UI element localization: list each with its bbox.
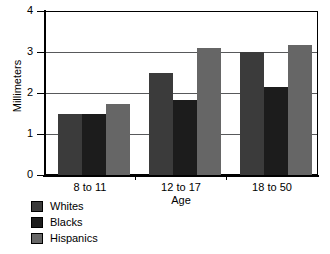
- y-tick-0: [37, 175, 44, 176]
- y-tick-1: [37, 134, 44, 135]
- bar-hispanics-12-to-17: [197, 48, 221, 175]
- bar-chart: 4 3 2 1 0 8 to 11 12 to 17 18 to 50 Mill…: [0, 0, 330, 254]
- legend-swatch-whites: [31, 201, 43, 212]
- y-axis-line: [44, 10, 46, 177]
- y-tick-4: [37, 11, 44, 12]
- bar-blacks-12-to-17: [173, 100, 197, 175]
- x-tick-label-8-to-11: 8 to 11: [45, 181, 135, 193]
- bar-blacks-8-to-11: [82, 114, 106, 175]
- legend-label-blacks: Blacks: [50, 217, 82, 228]
- x-tick-2: [226, 175, 227, 180]
- bar-blacks-18-to-50: [264, 87, 288, 175]
- bar-whites-12-to-17: [149, 73, 173, 175]
- x-tick-label-18-to-50: 18 to 50: [227, 181, 317, 193]
- y-tick-2: [37, 93, 44, 94]
- legend-item-blacks: Blacks: [31, 215, 98, 230]
- y-tick-label-0: 0: [3, 169, 33, 180]
- y-tick-label-4: 4: [3, 5, 33, 16]
- y-axis-title: Millimeters: [11, 41, 23, 131]
- x-tick-label-12-to-17: 12 to 17: [136, 181, 226, 193]
- x-tick-1: [135, 175, 136, 180]
- y-tick-3: [37, 52, 44, 53]
- legend-label-whites: Whites: [50, 201, 84, 212]
- x-axis-line: [43, 175, 319, 177]
- legend-label-hispanics: Hispanics: [50, 233, 98, 244]
- legend: Whites Blacks Hispanics: [31, 199, 98, 247]
- bar-hispanics-18-to-50: [288, 45, 312, 175]
- legend-item-whites: Whites: [31, 199, 98, 214]
- bar-whites-8-to-11: [58, 114, 82, 175]
- bar-hispanics-8-to-11: [106, 104, 130, 175]
- legend-swatch-hispanics: [31, 233, 43, 244]
- bar-whites-18-to-50: [240, 52, 264, 175]
- legend-swatch-blacks: [31, 217, 43, 228]
- legend-item-hispanics: Hispanics: [31, 231, 98, 246]
- bars-layer: [45, 12, 317, 175]
